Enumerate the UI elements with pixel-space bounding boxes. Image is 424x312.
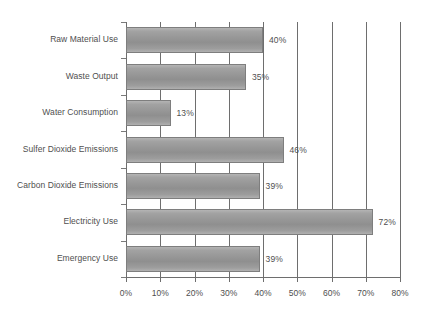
bar[interactable] xyxy=(126,27,263,53)
x-axis-tick-label: 70% xyxy=(357,288,374,298)
x-axis-tick xyxy=(126,277,127,282)
x-axis-tick xyxy=(366,277,367,282)
x-axis-tick-label: 60% xyxy=(323,288,340,298)
category-label: Waste Output xyxy=(0,71,118,81)
y-axis-tick xyxy=(121,241,126,242)
x-axis-tick-label: 50% xyxy=(289,288,306,298)
x-axis-tick xyxy=(400,277,401,282)
x-axis-tick xyxy=(263,277,264,282)
bar[interactable] xyxy=(126,100,171,126)
x-axis-tick-label: 20% xyxy=(186,288,203,298)
bar-row[interactable]: 72% xyxy=(126,209,400,235)
x-axis-tick-label: 0% xyxy=(120,288,132,298)
bar-value-label: 40% xyxy=(269,35,286,45)
bar[interactable] xyxy=(126,246,260,272)
bar-row[interactable]: 46% xyxy=(126,137,400,163)
x-axis-tick xyxy=(297,277,298,282)
x-axis-tick-label: 40% xyxy=(254,288,271,298)
x-axis-tick xyxy=(229,277,230,282)
x-axis-tick xyxy=(160,277,161,282)
x-axis-tick-label: 30% xyxy=(220,288,237,298)
bar[interactable] xyxy=(126,173,260,199)
category-label: Electricity Use xyxy=(0,216,118,226)
bar-value-label: 72% xyxy=(379,217,396,227)
y-axis-tick xyxy=(121,168,126,169)
y-axis-tick xyxy=(121,58,126,59)
y-axis-tick xyxy=(121,131,126,132)
bar-value-label: 39% xyxy=(266,181,283,191)
bar-row[interactable]: 39% xyxy=(126,246,400,272)
category-label: Water Consumption xyxy=(0,107,118,117)
y-axis-tick xyxy=(121,22,126,23)
bar[interactable] xyxy=(126,137,284,163)
bar-row[interactable]: 13% xyxy=(126,100,400,126)
bar-row[interactable]: 39% xyxy=(126,173,400,199)
bar-value-label: 39% xyxy=(266,254,283,264)
y-axis-tick xyxy=(121,204,126,205)
x-axis-tick xyxy=(332,277,333,282)
y-axis-tick xyxy=(121,95,126,96)
category-label: Carbon Dioxide Emissions xyxy=(0,180,118,190)
gridline xyxy=(400,22,401,277)
plot-area: 40%35%13%46%39%72%39% xyxy=(126,22,400,277)
category-label: Raw Material Use xyxy=(0,34,118,44)
category-label: Sulfer Dioxide Emissions xyxy=(0,144,118,154)
x-axis-tick xyxy=(195,277,196,282)
bar[interactable] xyxy=(126,64,246,90)
x-axis-tick-label: 10% xyxy=(152,288,169,298)
bar-value-label: 46% xyxy=(290,145,307,155)
bar-value-label: 13% xyxy=(177,108,194,118)
category-label: Emergency Use xyxy=(0,253,118,263)
bar-row[interactable]: 35% xyxy=(126,64,400,90)
x-axis-tick-label: 80% xyxy=(391,288,408,298)
bar[interactable] xyxy=(126,209,373,235)
bar-value-label: 35% xyxy=(252,72,269,82)
bar-chart: 40%35%13%46%39%72%39% Raw Material UseWa… xyxy=(0,0,424,312)
bar-row[interactable]: 40% xyxy=(126,27,400,53)
